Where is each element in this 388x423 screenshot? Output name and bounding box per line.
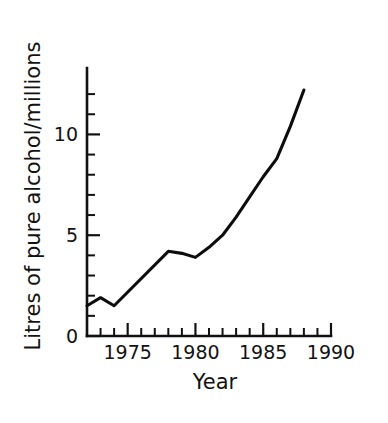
y-axis-title: Litres of pure alcohol/millions [21,42,45,351]
x-tick-label: 1985 [239,341,287,363]
y-axis-tick-labels: 0510 [54,123,78,347]
x-axis-tick-labels: 1975198019851990 [103,341,355,363]
data-line-alcohol [87,90,304,306]
y-tick-label: 0 [66,325,78,347]
line-chart: 0510 1975198019851990 Year Litres of pur… [0,0,388,423]
y-tick-label: 5 [66,224,78,246]
x-axis-ticks [101,323,331,336]
chart-figure: 0510 1975198019851990 Year Litres of pur… [0,0,388,423]
x-tick-label: 1975 [103,341,151,363]
x-tick-label: 1980 [171,341,219,363]
data-series-group [87,90,304,306]
x-axis-title: Year [192,370,238,394]
y-tick-label: 10 [54,123,78,145]
x-tick-label: 1990 [307,341,355,363]
